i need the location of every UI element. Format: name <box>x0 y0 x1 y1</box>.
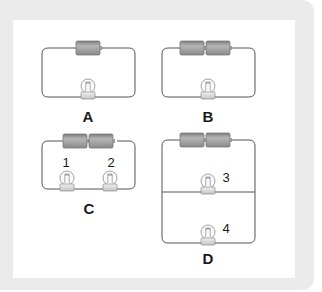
circuit-label-d: D <box>203 250 214 267</box>
bulb-number-2: 2 <box>107 155 114 170</box>
battery-icon <box>206 133 232 147</box>
bulb-icon <box>60 171 74 191</box>
battery-icon <box>76 41 102 55</box>
circuit-label-a: A <box>83 108 94 125</box>
bulb-number-3: 3 <box>222 170 229 185</box>
bulb-number-4: 4 <box>222 221 229 236</box>
battery-icon <box>89 134 115 148</box>
bulb-icon <box>103 171 117 191</box>
circuit-d: 3 4 D <box>162 133 255 267</box>
bulb-icon <box>81 79 95 99</box>
battery-icon <box>180 133 206 147</box>
circuits-canvas: A B 1 2 C 3 4 D <box>0 0 322 292</box>
bulb-icon <box>201 174 215 194</box>
bulb-icon <box>201 225 215 245</box>
battery-icon <box>180 41 206 55</box>
circuit-label-b: B <box>203 108 214 125</box>
wire <box>42 141 135 189</box>
circuit-c: 1 2 C <box>42 134 135 217</box>
bulb-number-1: 1 <box>62 155 69 170</box>
circuit-b: B <box>162 41 255 125</box>
battery-icon <box>206 41 232 55</box>
battery-icon <box>63 134 89 148</box>
circuit-a: A <box>42 41 135 125</box>
bulb-icon <box>201 79 215 99</box>
circuit-label-c: C <box>84 200 95 217</box>
